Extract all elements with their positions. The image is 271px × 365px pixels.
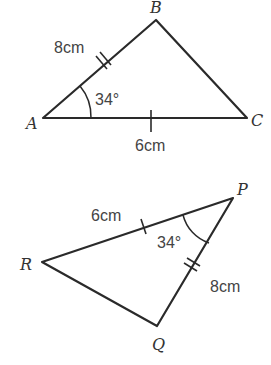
triangle-abc: A B C 8cm 6cm 34°: [24, 0, 263, 154]
angle-label-p: 34°: [157, 234, 181, 251]
side-length-ac: 6cm: [135, 137, 165, 154]
side-length-pq: 8cm: [210, 278, 240, 295]
vertex-label-c: C: [251, 111, 263, 130]
vertex-label-a: A: [24, 114, 38, 133]
vertex-label-b: B: [149, 0, 162, 17]
side-length-ab: 8cm: [54, 39, 84, 56]
triangle-abc-outline: [43, 20, 247, 118]
triangle-pqr: P R Q 6cm 8cm 34°: [19, 180, 248, 354]
vertex-label-p: P: [236, 180, 248, 199]
triangle-pqr-outline: [42, 198, 233, 326]
angle-label-a: 34°: [95, 91, 119, 108]
angle-arc-a: [80, 86, 91, 118]
vertex-label-q: Q: [152, 335, 165, 354]
angle-arc-p: [183, 215, 209, 243]
side-length-pr: 6cm: [91, 207, 121, 224]
congruent-triangles-diagram: A B C 8cm 6cm 34° P R Q 6cm 8cm 34°: [0, 0, 271, 365]
vertex-label-r: R: [19, 255, 32, 274]
